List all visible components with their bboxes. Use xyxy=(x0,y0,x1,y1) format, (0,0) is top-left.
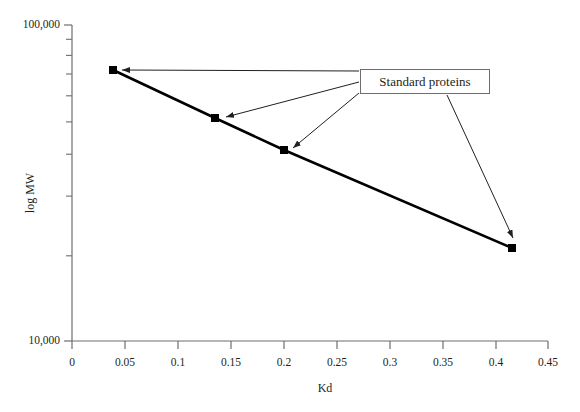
plot-canvas xyxy=(0,0,580,412)
x-tick-label-0-35: 0.35 xyxy=(433,357,453,369)
annotation-label: Standard proteins xyxy=(379,74,470,90)
x-axis-title: Kd xyxy=(318,381,333,396)
x-tick-label-0-4: 0.4 xyxy=(489,357,503,369)
x-axis-ticks xyxy=(72,341,548,349)
annotation-arrow xyxy=(447,95,513,238)
y-axis-major-ticks xyxy=(64,25,72,341)
x-tick-label-0-15: 0.15 xyxy=(221,357,241,369)
x-tick-label-0-1: 0.1 xyxy=(171,357,185,369)
data-series-line xyxy=(113,70,512,248)
annotation-arrow xyxy=(122,70,359,71)
y-axis-title: log MW xyxy=(23,173,38,213)
x-tick-label-0-25: 0.25 xyxy=(327,357,347,369)
data-point-marker xyxy=(211,114,219,122)
x-tick-label-0-05: 0.05 xyxy=(115,357,135,369)
x-tick-label-0-3: 0.3 xyxy=(383,357,397,369)
y-tick-label-10000: 10,000 xyxy=(8,335,60,347)
annotation-box: Standard proteins xyxy=(360,69,490,94)
chart-figure: 100,000 10,000 0 0.05 0.1 0.15 0.2 0.25 … xyxy=(0,0,580,412)
annotation-arrow xyxy=(293,93,359,148)
x-tick-label-0-2: 0.2 xyxy=(277,357,291,369)
y-axis-minor-ticks xyxy=(66,39,72,256)
x-tick-label-0: 0 xyxy=(69,357,75,369)
annotation-arrow xyxy=(226,82,359,117)
y-tick-label-100000: 100,000 xyxy=(8,19,60,31)
annotation-arrows xyxy=(122,70,513,238)
data-point-marker xyxy=(280,146,288,154)
data-point-marker xyxy=(109,66,117,74)
data-point-marker xyxy=(508,244,516,252)
x-tick-label-0-45: 0.45 xyxy=(538,357,558,369)
